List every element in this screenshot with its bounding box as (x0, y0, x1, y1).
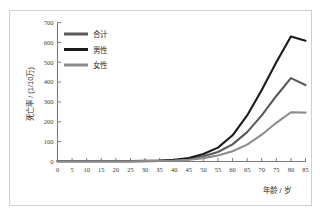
x-tick-label: 0 (56, 166, 59, 173)
x-tick-label: 80 (288, 166, 295, 173)
y-tick-label: 100 (44, 138, 54, 145)
data-series-group (58, 36, 306, 161)
x-tick-label: 65 (244, 166, 251, 173)
x-tick-label: 70 (258, 166, 265, 173)
y-axis-title: 死亡率 / (1/10万) (25, 67, 35, 121)
x-tick-label: 50 (200, 166, 207, 173)
plot-axes (58, 23, 306, 162)
x-tick-label: 30 (142, 166, 149, 173)
chart-legend: 合计男性女性 (64, 29, 108, 70)
y-tick-label: 200 (44, 118, 54, 125)
legend-label-男性: 男性 (93, 45, 108, 55)
x-tick-label: 5 (70, 166, 73, 173)
y-tick-label: 400 (44, 78, 54, 85)
series-line-女性 (58, 112, 306, 161)
x-tick-label: 45 (186, 166, 193, 173)
x-tick-label: 60 (229, 166, 236, 173)
x-tick-label: 10 (83, 166, 90, 173)
x-axis-tick-labels: 0510152025303540455055606570758085 (56, 166, 309, 173)
legend-label-女性: 女性 (93, 60, 108, 70)
legend-label-合计: 合计 (93, 29, 108, 39)
x-tick-label: 25 (127, 166, 134, 173)
y-tick-label: 0 (50, 158, 53, 165)
x-tick-label: 35 (156, 166, 163, 173)
line-chart: 0100200300400500600700 05101520253035404… (0, 0, 321, 215)
y-tick-label: 700 (44, 19, 54, 26)
x-tick-label: 15 (98, 166, 105, 173)
x-tick-label: 85 (302, 166, 309, 173)
y-tick-label: 500 (44, 59, 54, 66)
y-tick-label: 600 (44, 39, 54, 46)
series-line-合计 (58, 78, 306, 161)
x-tick-label: 75 (273, 166, 280, 173)
x-tick-label: 40 (171, 166, 178, 173)
x-tick-label: 55 (215, 166, 222, 173)
y-tick-label: 300 (44, 98, 54, 105)
chart-figure: 0100200300400500600700 05101520253035404… (0, 0, 321, 215)
x-axis-title: 年龄 / 岁 (263, 185, 290, 195)
series-line-男性 (58, 36, 306, 161)
x-tick-label: 20 (113, 166, 120, 173)
y-axis-tick-labels: 0100200300400500600700 (44, 19, 54, 165)
